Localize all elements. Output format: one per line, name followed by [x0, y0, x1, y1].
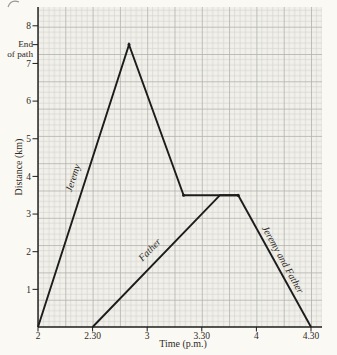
y-tick-label: 6 — [26, 96, 31, 106]
x-tick-label: 2.30 — [84, 331, 101, 341]
y-axis-ticks: 12345678 — [26, 21, 38, 295]
y-tick-label: 4 — [26, 172, 31, 182]
end-of-path-annotation-line1: End — [18, 39, 33, 49]
distance-time-graph: 12345678 22.3033.3044.30 JeremyFatherJer… — [0, 0, 337, 355]
y-tick-label: 2 — [26, 247, 31, 257]
vertex-dot — [128, 43, 131, 46]
x-axis-title: Time (p.m.) — [159, 338, 207, 350]
page-artifact-mark — [8, 1, 19, 7]
textbook-figure: 12345678 22.3033.3044.30 JeremyFatherJer… — [0, 0, 337, 355]
vertex-dot — [182, 194, 185, 197]
vertex-dot — [237, 194, 240, 197]
y-axis-title: Distance (km) — [13, 139, 25, 196]
x-tick-label: 3 — [145, 331, 150, 341]
y-tick-label: 7 — [26, 59, 31, 69]
end-of-path-annotation-line2: of path — [7, 49, 33, 59]
x-tick-label: 4.30 — [303, 331, 320, 341]
x-tick-label: 4 — [254, 331, 259, 341]
y-tick-label: 1 — [26, 285, 31, 295]
y-tick-label: 5 — [26, 134, 31, 144]
y-tick-label: 8 — [26, 21, 31, 31]
y-tick-label: 3 — [26, 209, 31, 219]
x-tick-label: 2 — [36, 331, 41, 341]
